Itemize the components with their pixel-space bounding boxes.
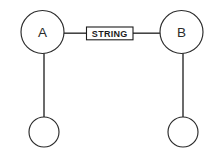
leaf-left-circle[interactable]	[29, 117, 59, 147]
node-b-label: B	[177, 25, 186, 40]
string-label-text: STRING	[87, 30, 134, 39]
diagram-graphic: A B	[0, 0, 215, 156]
diagram-canvas: A B STRING	[0, 0, 215, 156]
node-a-label: A	[38, 25, 47, 40]
leaf-right-circle[interactable]	[168, 117, 198, 147]
